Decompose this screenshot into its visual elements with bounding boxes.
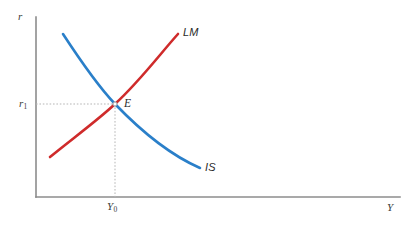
- y-tick-label-r1: r1: [19, 98, 27, 109]
- x-tick-label-y0: Y0: [107, 201, 117, 212]
- is-curve-label: IS: [205, 162, 216, 173]
- is-lm-diagram-figure: r Y r1 Y0 LM IS E: [0, 0, 417, 227]
- lm-curve-label: LM: [183, 27, 199, 38]
- x-tick-subscript: 0: [113, 205, 117, 214]
- is-curve: [63, 34, 200, 168]
- equilibrium-point-marker: [113, 102, 117, 106]
- y-axis-label: r: [18, 11, 22, 22]
- equilibrium-point-label: E: [124, 98, 131, 110]
- x-axis-label: Y: [387, 202, 393, 213]
- y-tick-subscript: 1: [24, 102, 28, 111]
- plot-canvas: [0, 0, 417, 227]
- y-tick-base: r: [19, 97, 23, 109]
- lm-curve: [50, 34, 178, 157]
